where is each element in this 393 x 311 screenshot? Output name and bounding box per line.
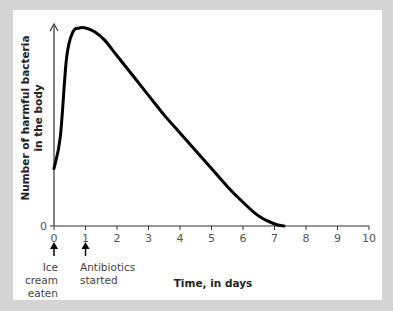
svg-text:Antibiotics: Antibiotics [80, 261, 135, 273]
ice-cream-annotation: Ice cream eaten [25, 242, 58, 299]
svg-text:in the body: in the body [32, 84, 44, 151]
x-tick-label: 7 [271, 232, 278, 245]
bacteria-curve [54, 28, 284, 226]
y-axis-label: Number of harmful bacteria in the body [19, 36, 44, 201]
x-axis-label: Time, in days [174, 277, 253, 289]
x-tick-label: 6 [240, 232, 247, 245]
x-tick-label: 8 [303, 232, 310, 245]
svg-text:cream: cream [25, 274, 58, 286]
x-tick-label: 3 [145, 232, 152, 245]
y-tick-0: 0 [40, 220, 47, 233]
bacteria-line-chart: 012345678910 0 Number of harmful bacteri… [0, 0, 393, 311]
svg-text:Number of harmful bacteria: Number of harmful bacteria [19, 36, 31, 201]
x-tick-label: 10 [362, 232, 376, 245]
x-tick-label: 4 [177, 232, 184, 245]
x-tick-label: 2 [114, 232, 121, 245]
svg-text:eaten: eaten [28, 287, 58, 299]
x-tick-label: 9 [334, 232, 341, 245]
svg-text:started: started [80, 274, 118, 286]
antibiotics-annotation: Antibiotics started [80, 242, 135, 286]
x-ticks: 012345678910 [51, 226, 377, 245]
svg-text:Ice: Ice [43, 261, 58, 273]
x-tick-label: 5 [208, 232, 215, 245]
